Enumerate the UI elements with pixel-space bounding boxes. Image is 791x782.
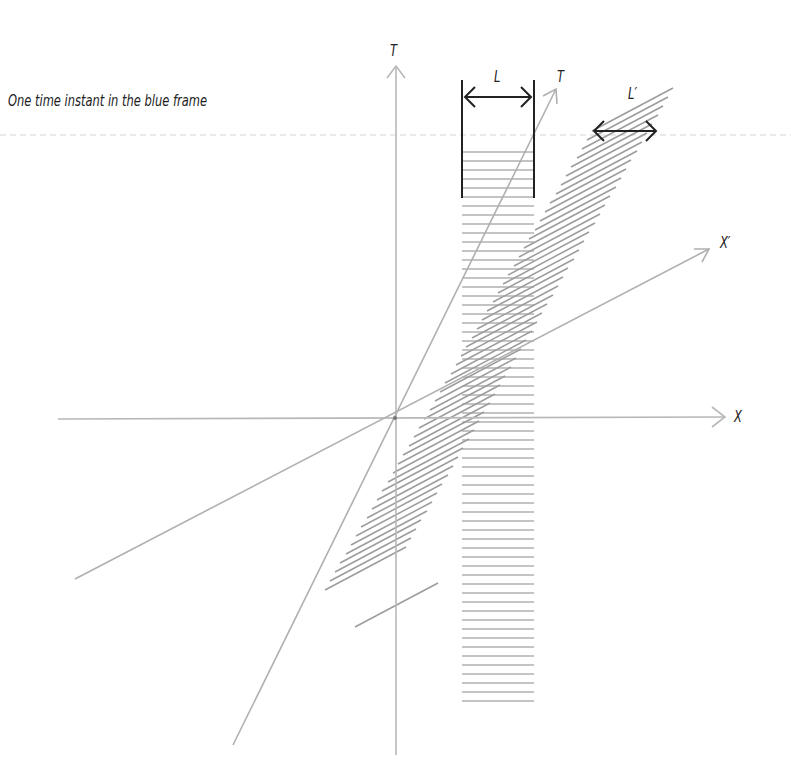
length-l-marker (462, 80, 534, 198)
x-prime-axis-label: X′ (720, 234, 730, 252)
length-l-label: L (494, 68, 500, 86)
t-axis-label: T (390, 42, 397, 60)
t-prime-axis-label: T (557, 68, 564, 86)
t-axis (387, 66, 405, 755)
caption-text: One time instant in the blue frame (8, 92, 207, 110)
spacetime-diagram (0, 0, 791, 782)
origin-point (393, 416, 397, 420)
rest-frame-band (462, 152, 534, 701)
length-l-prime-label: L′ (628, 85, 637, 103)
x-axis-label: X (734, 408, 742, 426)
